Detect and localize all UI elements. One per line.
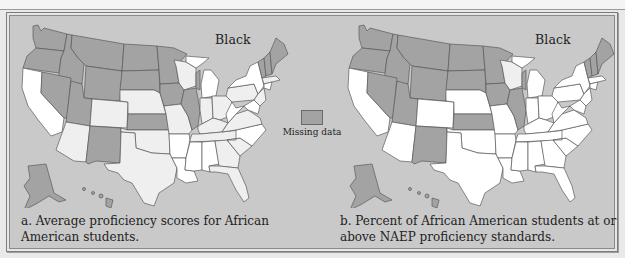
state-ks <box>127 114 169 130</box>
state-wa <box>359 25 393 51</box>
state-nd <box>122 44 159 71</box>
state-wy <box>84 66 122 101</box>
legend-label-missing: Missing data <box>272 127 352 137</box>
caption-a: a. Average proficiency scores for Africa… <box>21 213 301 245</box>
state-hi-2 <box>92 192 95 195</box>
state-hi-1 <box>409 188 412 191</box>
state-nm <box>412 126 447 164</box>
state-fl <box>535 166 575 202</box>
state-hi-1 <box>83 188 86 191</box>
state-ak <box>350 164 392 208</box>
state-wa <box>33 25 67 51</box>
state-me <box>270 38 288 74</box>
caption-b: b. Percent of African American students … <box>340 213 620 245</box>
state-nm <box>86 126 121 164</box>
state-hi-4 <box>432 198 439 208</box>
state-fl <box>209 166 249 202</box>
state-ak <box>24 164 66 208</box>
state-wy <box>410 66 448 101</box>
legend: Missing data <box>272 110 352 137</box>
map-panel-a <box>14 18 314 208</box>
state-me <box>596 38 614 74</box>
lake-michigan-strip <box>196 70 200 90</box>
group-label-b: Black <box>535 32 571 47</box>
us-map-b <box>340 18 625 208</box>
state-nd <box>448 44 485 71</box>
state-hi-4 <box>106 198 113 208</box>
state-ks <box>453 114 495 130</box>
state-co <box>90 99 128 128</box>
state-sd <box>446 70 486 93</box>
state-mi-lower <box>201 70 219 98</box>
group-label-a: Black <box>215 32 251 47</box>
state-ia <box>160 83 184 106</box>
state-hi-2 <box>418 192 421 195</box>
top-rule <box>0 0 625 10</box>
state-ia <box>486 83 510 106</box>
state-hi-3 <box>99 194 103 198</box>
us-map-a <box>14 18 314 208</box>
legend-swatch-missing <box>301 110 323 125</box>
state-hi-3 <box>425 194 429 198</box>
map-panel-b <box>340 18 625 208</box>
state-co <box>416 99 454 128</box>
state-mi-lower <box>527 70 545 98</box>
state-sd <box>120 70 160 93</box>
lake-michigan-strip <box>522 70 526 90</box>
